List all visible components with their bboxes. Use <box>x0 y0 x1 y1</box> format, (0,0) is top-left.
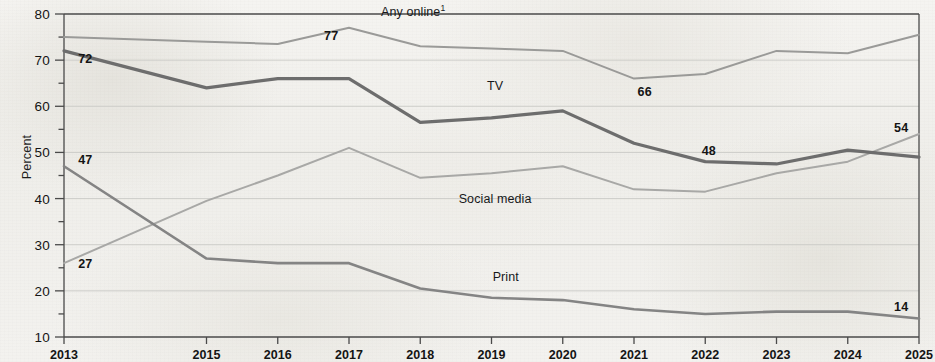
x-axis-tick-label: 2019 <box>477 348 505 362</box>
series-label-any-online: Any online1 <box>381 3 445 19</box>
x-axis-tick-label: 2017 <box>335 348 363 362</box>
data-value-label: 48 <box>702 144 716 158</box>
y-axis-tick-label: 10 <box>0 330 50 345</box>
data-value-label: 54 <box>894 121 908 135</box>
series-line-tv <box>64 51 919 164</box>
data-value-label: 47 <box>78 153 92 167</box>
y-axis-tick-label: 30 <box>0 237 50 252</box>
series-line-any-online <box>64 28 919 79</box>
data-value-label: 27 <box>78 257 92 271</box>
chart-canvas <box>0 0 935 362</box>
data-value-label: 77 <box>324 29 338 43</box>
x-axis-tick-label: 2015 <box>192 348 220 362</box>
y-axis-tick-label: 80 <box>0 7 50 22</box>
y-axis-tick-label: 20 <box>0 283 50 298</box>
x-axis-tick-label: 2024 <box>834 348 862 362</box>
data-value-label: 14 <box>894 300 908 314</box>
series-label-print: Print <box>493 270 519 284</box>
y-axis-tick-label: 60 <box>0 99 50 114</box>
y-axis-tick-label: 40 <box>0 191 50 206</box>
x-axis-tick-label: 2021 <box>620 348 648 362</box>
footnote-marker: 1 <box>440 3 445 13</box>
series-label-tv: TV <box>487 79 503 93</box>
line-chart: Percent 10203040506070802013201520162017… <box>0 0 935 362</box>
x-axis-tick-label: 2016 <box>264 348 292 362</box>
x-axis-tick-label: 2013 <box>50 348 78 362</box>
series-line-print <box>64 166 919 318</box>
x-axis-tick-label: 2018 <box>406 348 434 362</box>
y-axis-tick-label: 70 <box>0 53 50 68</box>
x-axis-tick-label: 2022 <box>691 348 719 362</box>
data-value-label: 66 <box>638 85 652 99</box>
x-axis-tick-label: 2023 <box>762 348 790 362</box>
y-axis-tick-label: 50 <box>0 145 50 160</box>
data-value-label: 72 <box>78 52 92 66</box>
x-axis-tick-label: 2025 <box>905 348 933 362</box>
series-label-social-media: Social media <box>459 192 532 206</box>
x-axis-tick-label: 2020 <box>549 348 577 362</box>
